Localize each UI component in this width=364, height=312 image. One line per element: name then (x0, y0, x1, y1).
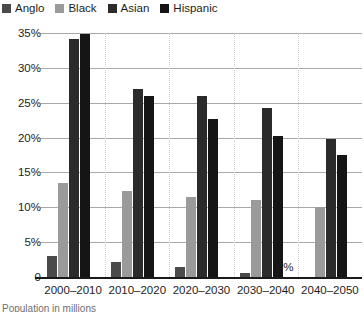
bar (326, 139, 336, 277)
x-axis-baseline (36, 277, 362, 279)
bar (111, 262, 121, 277)
bar (273, 136, 283, 277)
bar (251, 200, 261, 277)
bar-group (298, 33, 362, 277)
x-tick-label: 2010–2020 (105, 283, 169, 297)
legend-swatch-hispanic (160, 4, 169, 13)
bar-value-label: 0% (277, 262, 294, 273)
bar (175, 267, 185, 277)
bar (47, 256, 57, 277)
x-axis-labels: 2000–20102010–20202020–20302030–20402040… (41, 283, 362, 299)
legend-label-black: Black (68, 2, 96, 15)
legend-item-asian: Asian (108, 1, 150, 16)
x-tick-label: 2020–2030 (169, 283, 233, 297)
bar (315, 207, 325, 277)
legend-label-hispanic: Hispanic (173, 2, 217, 15)
bar-chart: Anglo Black Asian Hispanic 35%30%25%20%1… (0, 0, 364, 312)
bar-group (234, 33, 298, 277)
bar (208, 119, 218, 277)
bar-group (169, 33, 233, 277)
y-axis: 35%30%25%20%15%10%5%0 (0, 33, 41, 279)
bar (80, 34, 90, 277)
chart-legend: Anglo Black Asian Hispanic (2, 1, 228, 16)
plot-area: 0% (41, 33, 362, 277)
x-tick-label: 2000–2010 (41, 283, 105, 297)
legend-swatch-black (55, 4, 64, 13)
chart-footnote: Population in millions (2, 303, 96, 312)
bar (58, 183, 68, 277)
bar-group (41, 33, 105, 277)
bar (197, 96, 207, 277)
bar (186, 197, 196, 277)
legend-item-hispanic: Hispanic (160, 1, 217, 16)
legend-item-anglo: Anglo (2, 1, 44, 16)
bar (144, 96, 154, 277)
bar (133, 89, 143, 277)
bar (262, 108, 272, 277)
bar-group (105, 33, 169, 277)
legend-swatch-asian (108, 4, 117, 13)
legend-label-asian: Asian (121, 2, 150, 15)
x-tick-label: 2040–2050 (298, 283, 362, 297)
bar (69, 39, 79, 277)
legend-label-anglo: Anglo (15, 2, 44, 15)
bar (122, 191, 132, 277)
x-tick-label: 2030–2040 (234, 283, 298, 297)
legend-item-black: Black (55, 1, 96, 16)
legend-swatch-anglo (2, 4, 11, 13)
bar (337, 155, 347, 277)
